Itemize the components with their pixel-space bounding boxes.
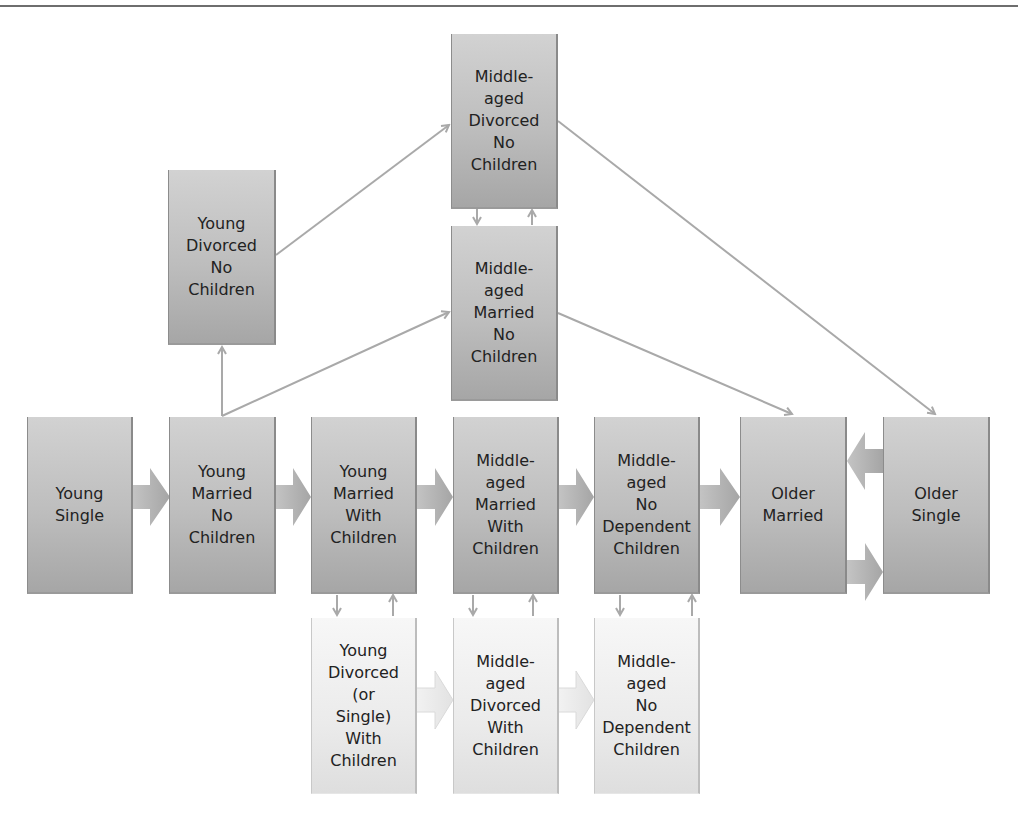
node-middle-aged-no-dependent-children-alt: Middle- aged No Dependent Children	[594, 618, 700, 794]
fat-arrow-4	[558, 468, 594, 526]
fat-arrow-5	[699, 468, 740, 526]
arrow-ydnc-to-madnc	[276, 125, 449, 255]
top-rule	[0, 5, 1018, 7]
node-middle-aged-divorced-with-children: Middle- aged Divorced With Children	[453, 618, 559, 794]
fat-arrow-1	[132, 468, 170, 526]
light-arrow-1	[416, 671, 453, 729]
arrow-madnc-to-older-single	[558, 121, 935, 414]
node-older-married: Older Married	[740, 417, 847, 594]
fat-arrow-3	[416, 468, 453, 526]
node-young-divorced-no-children: Young Divorced No Children	[168, 170, 276, 345]
node-middle-aged-divorced-no-children: Middle- aged Divorced No Children	[451, 34, 558, 209]
arrow-mamnc-to-older-married	[558, 313, 792, 414]
light-arrow-2	[558, 671, 594, 729]
fat-arrow-older-married-to-single	[847, 543, 883, 601]
node-young-married-no-children: Young Married No Children	[169, 417, 276, 594]
node-young-divorced-or-single-with-children: Young Divorced (or Single) With Children	[311, 618, 417, 794]
node-middle-aged-no-dependent-children: Middle- aged No Dependent Children	[594, 417, 700, 594]
node-young-married-with-children: Young Married With Children	[311, 417, 417, 594]
node-young-single: Young Single	[27, 417, 133, 594]
fat-arrow-older-single-to-married	[847, 432, 883, 490]
fat-arrow-2	[275, 468, 311, 526]
node-middle-aged-married-no-children: Middle- aged Married No Children	[451, 226, 558, 401]
node-older-single: Older Single	[883, 417, 990, 594]
node-middle-aged-married-with-children: Middle- aged Married With Children	[453, 417, 559, 594]
